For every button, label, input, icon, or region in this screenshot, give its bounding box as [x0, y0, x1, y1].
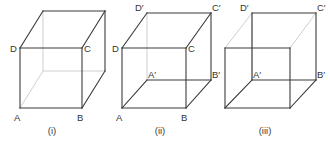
cube-ii-edge-D-to-Dprime [122, 13, 147, 48]
cube-i-edge-front-bottom-left-to-back [20, 71, 43, 108]
cube-diagrams-svg: D C A B (i) [0, 0, 330, 141]
cube-ii-vertex-label-Dprime: D′ [135, 2, 144, 13]
cube-diagram-ii: D′ C′ D C A′ B′ A B (ii) [112, 2, 221, 136]
cube-i-vertex-label-A: A [14, 112, 21, 123]
cube-ii-vertex-label-Cprime: C′ [212, 2, 221, 13]
cube-ii-vertex-label-A: A [116, 112, 123, 123]
cube-figure-panel-group: D C A B (i) [0, 0, 330, 141]
cube-ii-vertex-label-D: D [112, 43, 119, 54]
cube-iii-vertex-label-Cprime: C′ [317, 2, 326, 13]
cube-iii-caption: (iii) [259, 125, 272, 136]
cube-iii-visible-edges [225, 13, 316, 108]
cube-i-hidden-edges [20, 11, 105, 108]
cube-ii-edge-A-to-Aprime [122, 80, 147, 108]
cube-ii-vertex-label-C: C [188, 43, 195, 54]
cube-ii-vertex-label-Bprime: B′ [212, 69, 220, 80]
cube-ii-vertex-label-B: B [181, 112, 187, 123]
cube-i-vertex-label-B: B [77, 112, 83, 123]
cube-iii-edge-hidden-top-left [225, 13, 252, 48]
cube-ii-visible-edges [122, 13, 211, 108]
cube-i-vertex-label-D: D [10, 43, 17, 54]
cube-ii-caption: (ii) [155, 125, 166, 136]
cube-iii-hidden-edges [225, 13, 316, 80]
cube-diagram-iii: D′ C′ A′ B′ (iii) [225, 2, 326, 136]
cube-diagram-i: D C A B (i) [10, 11, 105, 136]
cube-iii-vertex-label-Dprime: D′ [240, 2, 249, 13]
cube-i-caption: (i) [48, 125, 56, 136]
cube-iii-edge-frontbottomright-to-Bprime [290, 80, 316, 108]
cube-i-visible-edges [20, 11, 105, 108]
cube-ii-vertex-label-Aprime: A′ [148, 69, 156, 80]
cube-iii-edge-hidden-top-right [290, 13, 316, 48]
cube-ii-edge-B-to-Bprime [186, 80, 211, 108]
cube-i-edge-D-to-backtopleft [20, 11, 43, 48]
cube-iii-edge-frontbottomleft-to-Aprime [225, 80, 252, 108]
cube-i-vertex-label-C: C [84, 43, 91, 54]
cube-iii-vertex-label-Bprime: B′ [317, 69, 325, 80]
cube-i-edge-B-to-backbottomright [82, 71, 105, 108]
cube-iii-vertex-label-Aprime: A′ [253, 69, 261, 80]
